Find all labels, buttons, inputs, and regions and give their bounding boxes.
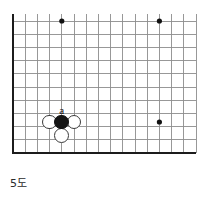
star-point-center-right: [157, 119, 162, 124]
star-point-upper-left: [59, 18, 64, 23]
figure-caption: 5도: [10, 177, 27, 190]
go-board[interactable]: [0, 0, 211, 170]
star-point-upper-right: [157, 18, 162, 23]
go-board-grid: [0, 0, 211, 170]
board-border: [12, 14, 196, 154]
go-diagram-figure: a 5도: [0, 0, 211, 197]
white-stone-below[interactable]: [54, 128, 69, 143]
grid-lines: [13, 14, 196, 153]
